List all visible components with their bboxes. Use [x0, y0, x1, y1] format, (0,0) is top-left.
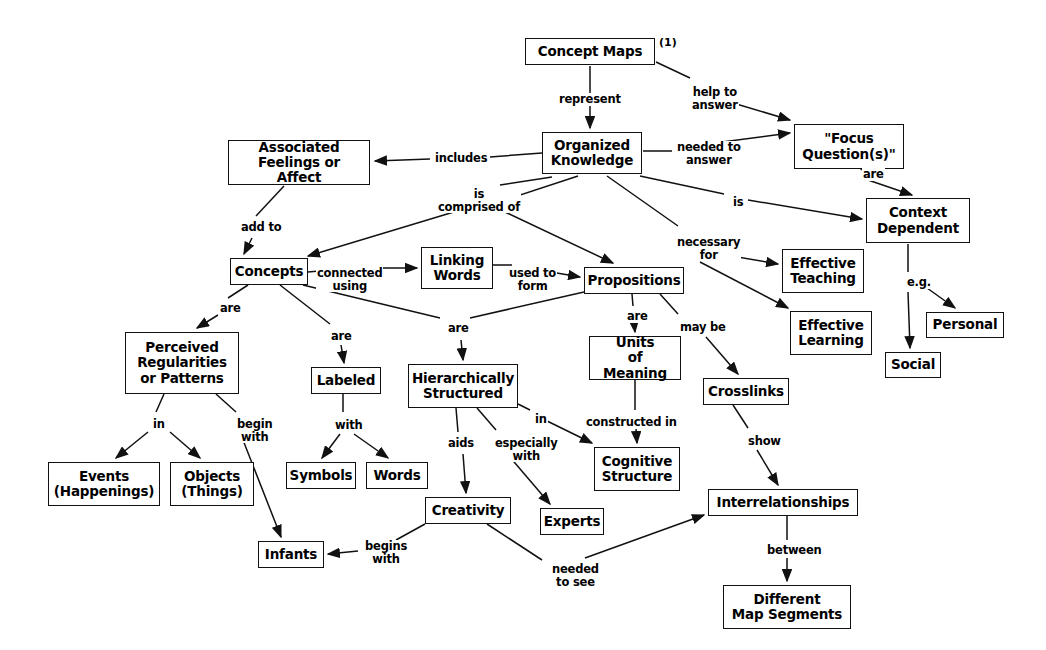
node-personal[interactable]: Personal	[926, 312, 1004, 338]
edge-layer	[0, 0, 1046, 650]
link-label-may-be: may be	[679, 321, 727, 334]
node-cognitive-structure[interactable]: Cognitive Structure	[594, 447, 680, 491]
edge-perceived-to-objects	[170, 432, 200, 458]
edge-concepts-to-hierarchical	[303, 285, 463, 360]
link-label-aids: aids	[447, 437, 475, 450]
concept-map-canvas: Concept MapsOrganized Knowledge"Focus Qu…	[0, 0, 1046, 650]
node-concept-maps[interactable]: Concept Maps	[525, 38, 655, 65]
link-label-add-to: add to	[240, 221, 282, 234]
node-propositions[interactable]: Propositions	[584, 267, 684, 294]
node-linking-words[interactable]: Linking Words	[421, 247, 493, 289]
link-label-help-to-answer: help to answer	[691, 86, 739, 111]
edge-organized-to-propositions	[505, 176, 613, 263]
node-organized-knowledge[interactable]: Organized Knowledge	[542, 132, 642, 174]
link-label-in-events: in	[152, 418, 166, 431]
node-crosslinks[interactable]: Crosslinks	[703, 378, 789, 405]
link-label-is-context: is	[732, 196, 744, 209]
link-label-begin-with: begin with	[236, 418, 273, 443]
edge-labeled-to-words	[354, 434, 388, 458]
node-labeled[interactable]: Labeled	[311, 367, 381, 394]
node-effective-teaching[interactable]: Effective Teaching	[782, 249, 864, 293]
edge-organized-to-learning	[700, 262, 788, 308]
node-effective-learning[interactable]: Effective Learning	[790, 311, 872, 355]
link-label-begins-with: begins with	[364, 540, 408, 565]
edge-hierarchical-to-creativity	[456, 408, 466, 493]
link-label-needed-to-see: needed to see	[551, 563, 600, 588]
edge-units-to-cognitive	[635, 380, 637, 443]
edge-propositions-to-hierarchical	[470, 292, 584, 318]
node-infants[interactable]: Infants	[258, 541, 324, 568]
edge-organized-to-context	[640, 176, 862, 219]
link-label-necessary-for: necessary for	[676, 236, 741, 261]
citation-superscript: (1)	[659, 36, 677, 49]
link-label-includes: includes	[434, 152, 488, 165]
link-label-show: show	[747, 435, 782, 448]
node-social[interactable]: Social	[885, 352, 941, 378]
node-associated-feelings[interactable]: Associated Feelings or Affect	[228, 140, 370, 185]
link-label-are-concepts: are	[219, 302, 242, 315]
node-words[interactable]: Words	[366, 462, 428, 489]
link-label-connected-using: connected using	[316, 267, 383, 292]
node-events[interactable]: Events (Happenings)	[48, 462, 160, 506]
link-label-especially-with: especially with	[494, 437, 559, 462]
node-objects[interactable]: Objects (Things)	[170, 462, 254, 506]
link-label-with-symbols: with	[334, 419, 363, 432]
link-label-used-to-form: used to form	[508, 267, 557, 292]
node-perceived-regularities[interactable]: Perceived Regularities or Patterns	[125, 332, 239, 394]
node-different-map-segments[interactable]: Different Map Segments	[723, 585, 851, 629]
link-label-are-units: are	[626, 310, 649, 323]
link-label-needed-to-answer: needed to answer	[676, 141, 742, 166]
node-context-dependent[interactable]: Context Dependent	[866, 198, 970, 243]
link-label-are-labeled: are	[330, 330, 353, 343]
node-experts[interactable]: Experts	[540, 508, 604, 535]
node-symbols[interactable]: Symbols	[286, 462, 356, 489]
node-focus-questions[interactable]: "Focus Question(s)"	[794, 124, 904, 169]
link-label-between: between	[766, 544, 823, 557]
node-interrelationships[interactable]: Interrelationships	[708, 489, 858, 516]
node-creativity[interactable]: Creativity	[425, 497, 511, 524]
link-label-are-focus: are	[862, 168, 885, 181]
node-concepts[interactable]: Concepts	[230, 258, 308, 285]
link-label-are-hier: are	[447, 322, 470, 335]
link-label-in-cognitive: in	[534, 413, 548, 426]
link-label-constructed-in: constructed in	[585, 416, 678, 429]
edge-concepts-to-labeled	[280, 285, 344, 363]
node-units-of-meaning[interactable]: Units of Meaning	[589, 336, 681, 380]
edge-context-to-social	[908, 244, 910, 348]
link-label-is-comprised-of: is comprised of	[437, 188, 521, 213]
link-label-eg: e.g.	[906, 276, 932, 289]
node-hierarchically-structured[interactable]: Hierarchically Structured	[408, 364, 518, 408]
link-label-represent: represent	[558, 93, 622, 106]
